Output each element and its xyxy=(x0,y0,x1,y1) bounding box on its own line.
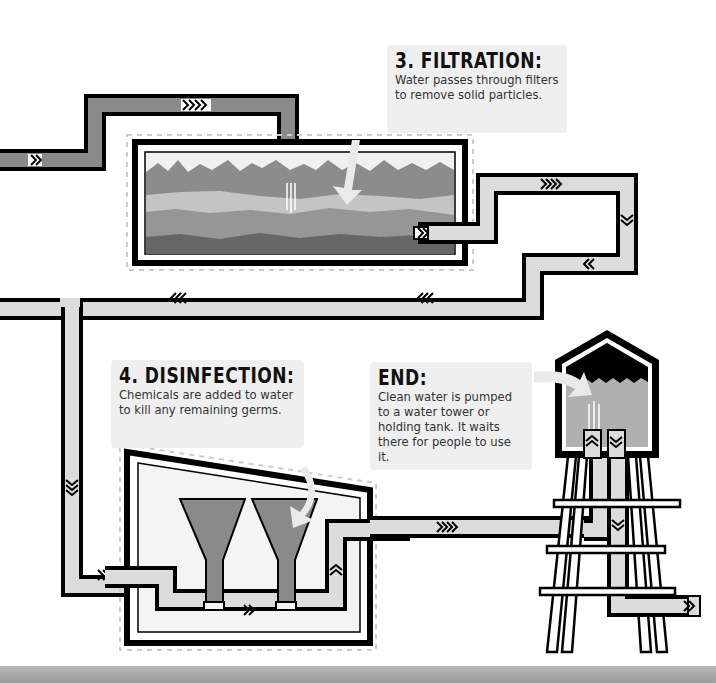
callout-body: Chemicals are added to water to kill any… xyxy=(119,388,296,418)
flow-arrow-icon xyxy=(28,154,42,166)
callout-body: Water passes through filters to remove s… xyxy=(395,73,559,103)
callout-filtration: 3. FILTRATION: Water passes through filt… xyxy=(387,45,567,133)
callout-end: END: Clean water is pumped to a water to… xyxy=(370,362,532,470)
disinfection-tank xyxy=(105,444,410,650)
bottom-band xyxy=(0,666,716,683)
callout-disinfection: 4. DISINFECTION: Chemicals are added to … xyxy=(111,360,304,448)
water-treatment-diagram xyxy=(0,0,716,683)
callout-title: 4. DISINFECTION: xyxy=(119,364,296,388)
callout-title: 3. FILTRATION: xyxy=(395,49,559,73)
flow-arrow-icon xyxy=(414,227,428,239)
callout-title: END: xyxy=(378,366,524,390)
filtration-tank xyxy=(127,135,473,270)
callout-body: Clean water is pumped to a water tower o… xyxy=(378,390,524,465)
flow-arrow-icon xyxy=(181,99,211,111)
tower-feed-pipe xyxy=(370,522,590,532)
water-tower xyxy=(534,330,700,652)
